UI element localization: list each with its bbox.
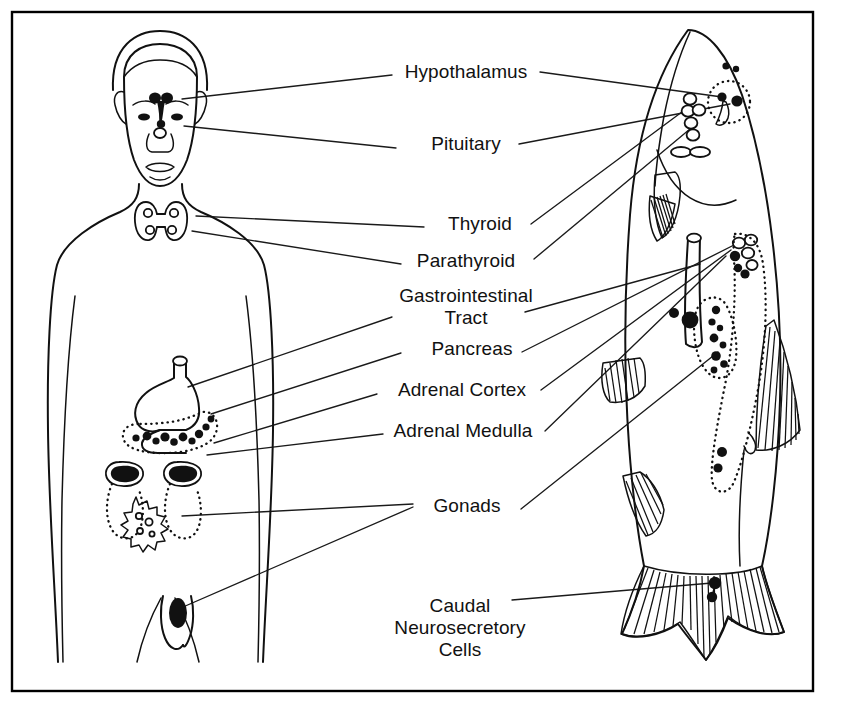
human-testis-gland [169, 598, 187, 628]
label-adrenal-cortex: Adrenal Cortex [398, 379, 527, 400]
fish-adrenal-cortex [669, 308, 679, 318]
fish-hypothalamus-lobe [731, 95, 742, 106]
label-caudal-cells-line2: Neurosecretory [394, 617, 526, 638]
label-gi-tract-line2: Tract [444, 307, 488, 328]
label-gi-tract-line1: Gastrointestinal [399, 285, 533, 306]
human-pituitary [157, 120, 165, 128]
fish-hypothalamus [717, 92, 726, 101]
human-eye-left [138, 114, 150, 121]
label-pancreas: Pancreas [431, 338, 512, 359]
fish-adrenal-medulla [682, 312, 699, 329]
label-caudal-cells-line1: Caudal [430, 595, 491, 616]
label-hypothalamus: Hypothalamus [405, 61, 528, 82]
human-adrenal-medulla-right [169, 466, 197, 482]
human-adrenal-medulla-left [111, 466, 139, 482]
human-eye-right [171, 114, 183, 121]
human-nose-tip [154, 128, 166, 138]
canvas-background [0, 0, 853, 716]
label-parathyroid: Parathyroid [417, 250, 515, 271]
label-gonads: Gonads [433, 495, 500, 516]
fish-pineal [722, 62, 729, 69]
human-esophagus-opening [173, 357, 187, 366]
fish-pineal-accessory [733, 66, 739, 72]
fish-gut-opening [687, 234, 701, 243]
endocrine-diagram: Hypothalamus Pituitary Thyroid Parathyro… [0, 0, 853, 716]
label-thyroid: Thyroid [448, 213, 512, 234]
label-caudal-cells-line3: Cells [439, 639, 482, 660]
diagram-canvas: Hypothalamus Pituitary Thyroid Parathyro… [0, 0, 853, 716]
label-adrenal-medulla: Adrenal Medulla [394, 420, 533, 441]
label-pituitary: Pituitary [431, 133, 501, 154]
